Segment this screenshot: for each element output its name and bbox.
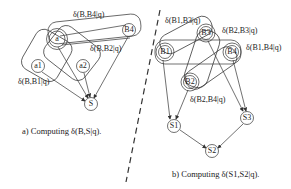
node-a2: a2 [76,62,90,70]
label-delta-b-b2: δ(B,B2|q) [90,45,121,53]
node-b3: B3 [199,29,213,37]
label-delta-b1-b4: δ(B1,B4|q) [246,44,281,52]
node-a1: a1 [31,62,45,70]
diagram-canvas: a a1 a2 B4 S δ(B,B4|q) δ(B,B2|q) δ(B,B1|… [0,0,291,189]
label-delta-b2-b4: δ(B2,B4|q) [190,96,225,104]
node-s2: S2 [205,147,219,155]
label-delta-b1-b3: δ(B1,B3|q) [165,17,200,25]
node-b4-left: B4 [122,26,136,34]
node-a: a [52,35,62,43]
label-delta-b2-b3: δ(B2,B3|q) [222,27,257,35]
node-s1: S1 [167,122,181,130]
label-delta-b-b4: δ(B,B4|q) [73,11,104,19]
node-b1: B1 [158,48,172,56]
node-s: S [85,100,97,108]
node-s3: S3 [240,114,254,122]
node-b4: B4 [225,48,239,56]
node-b2: B2 [183,78,197,86]
caption-left: a) Computing δ(B,S|q). [22,127,101,136]
caption-right: b) Computing δ(S1,S2|q). [172,170,259,179]
label-delta-b-b1: δ(B,B1|q) [18,78,49,86]
